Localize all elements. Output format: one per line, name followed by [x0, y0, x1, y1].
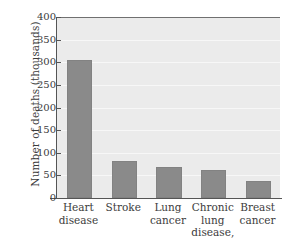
- y-tick-label: 400: [30, 12, 56, 22]
- x-axis-category-label: Breastcancer: [228, 201, 287, 226]
- y-tick-mark: [56, 85, 61, 86]
- y-tick-mark: [56, 198, 61, 199]
- plot-area: [56, 17, 280, 198]
- y-tick-label: 250: [30, 80, 56, 90]
- y-tick-mark: [56, 17, 61, 18]
- y-tick-mark: [56, 62, 61, 63]
- bar: [246, 181, 271, 198]
- plot-frame-top: [56, 17, 280, 18]
- bar: [112, 161, 137, 198]
- y-tick-mark: [56, 175, 61, 176]
- y-tick-label: 50: [30, 170, 56, 180]
- y-tick-label: 300: [30, 57, 56, 67]
- gridline: [57, 40, 280, 41]
- bar: [67, 60, 92, 198]
- y-tick-mark: [56, 153, 61, 154]
- y-tick-mark: [56, 40, 61, 41]
- x-axis-category-line: disease,: [183, 226, 242, 238]
- y-tick-mark: [56, 108, 61, 109]
- y-tick-mark: [56, 130, 61, 131]
- y-tick-label: 350: [30, 35, 56, 45]
- y-tick-label: 200: [30, 103, 56, 113]
- bar-chart-figure: Number of deaths (thousands) 05010015020…: [0, 0, 294, 238]
- x-axis-category-line: cancer: [228, 214, 287, 227]
- bar: [156, 167, 181, 198]
- y-tick-label: 100: [30, 148, 56, 158]
- x-axis-category-line: disease: [49, 214, 108, 227]
- x-axis-category-line: Breast: [228, 201, 287, 214]
- bar: [201, 170, 226, 199]
- x-axis-line: [50, 198, 282, 199]
- y-tick-label: 150: [30, 125, 56, 135]
